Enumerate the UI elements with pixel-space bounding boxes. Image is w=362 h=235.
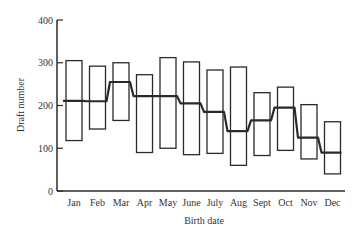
box-aug: [231, 67, 247, 165]
box-dec: [325, 122, 341, 174]
x-tick-label: May: [159, 197, 177, 208]
x-tick-label: June: [182, 197, 201, 208]
x-tick-label: Oct: [278, 197, 293, 208]
y-tick-label: 0: [48, 186, 53, 197]
x-tick-label: Nov: [300, 197, 317, 208]
box-may: [160, 58, 176, 149]
box-nov: [301, 105, 317, 159]
box-mar: [113, 63, 129, 121]
y-tick-label: 400: [38, 15, 53, 26]
box-oct: [278, 87, 294, 150]
x-tick-label: Sept: [253, 197, 271, 208]
box-apr: [137, 75, 153, 153]
y-tick-label: 100: [38, 143, 53, 154]
box-feb: [90, 66, 106, 129]
x-tick-label: July: [207, 197, 224, 208]
box-sept: [254, 93, 270, 156]
box-june: [184, 62, 200, 155]
x-tick-label: Apr: [137, 197, 153, 208]
x-tick-label: Feb: [90, 197, 105, 208]
x-tick-label: Jan: [67, 197, 80, 208]
x-axis: JanFebMarAprMayJuneJulyAugSeptOctNovDec: [57, 191, 345, 208]
median-trend-line: [63, 82, 342, 153]
x-tick-label: Aug: [230, 197, 247, 208]
y-axis-title: Draft number: [15, 77, 26, 132]
x-axis-title: Birth date: [184, 215, 224, 226]
median-line: [63, 82, 342, 153]
x-tick-label: Dec: [324, 197, 341, 208]
boxes: [66, 58, 341, 174]
box-plot-chart: 0100200300400 JanFebMarAprMayJuneJulyAug…: [0, 0, 362, 235]
y-tick-label: 200: [38, 100, 53, 111]
y-tick-label: 300: [38, 57, 53, 68]
x-tick-label: Mar: [113, 197, 130, 208]
y-axis: 0100200300400: [38, 15, 63, 197]
